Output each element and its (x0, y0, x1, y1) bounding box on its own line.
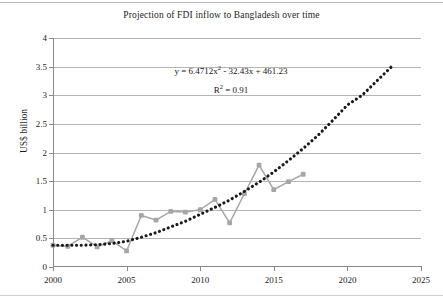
x-tick-label: 2005 (118, 275, 136, 285)
data-point-marker (227, 221, 232, 226)
data-point-marker (183, 210, 188, 215)
y-tick-label: 4 (43, 33, 48, 43)
y-tick-label: 3 (43, 90, 48, 100)
x-tick-label: 2000 (44, 275, 62, 285)
scan-edge-top (0, 2, 443, 3)
y-tick-label: 2.5 (36, 119, 47, 129)
chart-figure: Projection of FDI inflow to Bangladesh o… (0, 0, 443, 297)
y-tick-label: 0 (43, 262, 48, 272)
data-point-marker (286, 179, 291, 184)
y-tick-label: 2 (43, 148, 48, 158)
data-line-path (53, 165, 303, 251)
x-tick-label: 2010 (191, 275, 209, 285)
scan-edge-bottom (0, 295, 443, 296)
data-point-marker (198, 207, 203, 212)
x-tick (421, 266, 422, 271)
x-tick-label: 2015 (265, 275, 283, 285)
data-point-marker (139, 213, 144, 218)
chart-title: Projection of FDI inflow to Bangladesh o… (0, 10, 443, 20)
data-point-marker (154, 218, 159, 223)
data-point-marker (213, 197, 218, 202)
y-tick-label: 1 (43, 205, 48, 215)
equation-prefix: y = 6.4712x (174, 66, 217, 76)
y-axis-label: US$ billion (19, 91, 29, 171)
data-point-marker (124, 249, 129, 254)
data-point-marker (168, 209, 173, 214)
y-tick-label: 3.5 (36, 62, 47, 72)
data-point-marker (301, 172, 306, 177)
data-point-marker (257, 163, 262, 168)
equation-suffix: - 32.43x + 461.23 (221, 66, 288, 76)
data-point-marker (271, 187, 276, 192)
y-tick-label: 1.5 (36, 176, 47, 186)
x-tick-label: 2025 (412, 275, 430, 285)
equation-text: y = 6.4712x2 - 32.43x + 461.23 (133, 60, 329, 79)
r-squared-text: R2 = 0.91 (133, 79, 329, 98)
trendline-equation-annotation: y = 6.4712x2 - 32.43x + 461.23 R2 = 0.91 (133, 60, 329, 98)
data-point-marker (80, 235, 85, 240)
x-tick-label: 2020 (338, 275, 356, 285)
r-squared-suffix: = 0.91 (223, 85, 248, 95)
y-tick-label: 0.5 (36, 233, 47, 243)
